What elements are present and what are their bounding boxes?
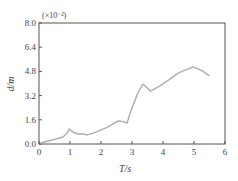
x-tick-label: 3	[130, 147, 135, 157]
x-tick-label: 6	[223, 147, 228, 157]
y-tick-label: 0.0	[25, 139, 37, 149]
y-tick-label: 3.2	[25, 91, 36, 101]
y-tick-label: 6.4	[25, 42, 37, 52]
y-tick-label: 4.8	[25, 66, 37, 76]
y-tick-label: 8.0	[25, 18, 37, 28]
line-chart: 0123456 0.01.63.24.86.48.0 (×10⁻²) T/s d…	[0, 0, 238, 181]
data-series-line	[41, 67, 210, 143]
x-tick-label: 4	[161, 147, 166, 157]
y-axis-title: d/m	[5, 77, 16, 92]
x-tick-label: 5	[192, 147, 197, 157]
x-tick-label: 0	[37, 147, 42, 157]
plot-frame	[39, 23, 225, 144]
y-multiplier-label: (×10⁻²)	[42, 11, 67, 20]
x-tick-label: 1	[68, 147, 73, 157]
y-tick-label: 1.6	[25, 115, 37, 125]
x-axis-title: T/s	[119, 163, 131, 174]
x-axis-ticks: 0123456	[37, 141, 228, 157]
x-tick-label: 2	[99, 147, 104, 157]
